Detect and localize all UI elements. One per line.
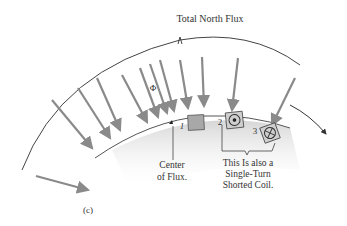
marker-3: 3: [253, 126, 258, 136]
marker-2: 2: [218, 117, 223, 127]
center-label-line2: of Flux.: [157, 172, 187, 182]
center-label-line1: Center: [159, 160, 185, 170]
coil-label-line1: This Is also a: [223, 158, 274, 168]
coil-label-line3: Shorted Coil.: [223, 180, 274, 190]
title-label: Total North Flux: [176, 13, 243, 24]
flux-diagram: Total North Flux Φ 1 2 3 Center of Flux.…: [0, 0, 347, 226]
flux-symbol: Φ: [150, 83, 157, 93]
marker-1: 1: [180, 121, 185, 131]
figure-label: (c): [83, 205, 93, 215]
coil-2-dot: [225, 111, 244, 129]
coil-label-line2: Single-Turn: [225, 169, 271, 179]
slot-1: [188, 115, 205, 131]
rotation-arrow: [290, 105, 326, 134]
